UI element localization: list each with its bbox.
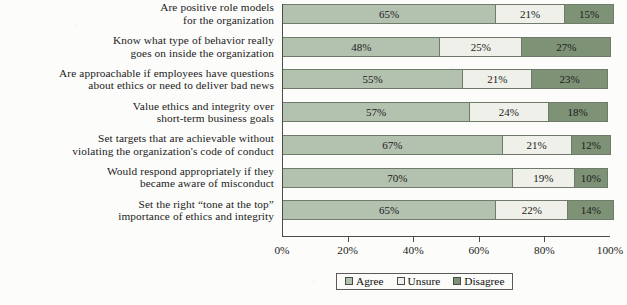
plot-area: 65%21%15%48%25%27%55%21%23%57%24%18%67%2… <box>282 4 610 237</box>
legend-swatch-icon <box>345 277 353 285</box>
bar-value-label: 18% <box>568 106 588 118</box>
bar-segment-disagree: 27% <box>522 37 611 57</box>
category-label-line: violating the organization's code of con… <box>0 145 274 158</box>
category-label: Value ethics and integrity overshort-ter… <box>0 100 279 125</box>
category-label-line: Would respond appropriately if they <box>0 165 274 178</box>
table-row: 70%19%10% <box>283 168 608 188</box>
bar-value-label: 21% <box>487 73 507 85</box>
bar-value-label: 21% <box>527 139 547 151</box>
axis-tick <box>544 237 545 242</box>
legend-item-agree[interactable]: Agree <box>345 275 384 287</box>
table-row: 65%21%15% <box>283 4 614 24</box>
bar-segment-agree: 55% <box>283 69 463 89</box>
category-label-line: Set targets that are achievable without <box>0 132 274 145</box>
axis-tick-label: 20% <box>337 244 358 256</box>
bar-segment-disagree: 23% <box>532 69 607 89</box>
bar-segment-agree: 48% <box>283 37 440 57</box>
axis-tick-label: 100% <box>597 244 623 256</box>
table-row: 48%25%27% <box>283 37 611 57</box>
bar-value-label: 55% <box>363 73 383 85</box>
category-label: Are positive role modelsfor the organiza… <box>0 1 279 26</box>
category-axis-line <box>282 236 610 237</box>
bar-segment-agree: 57% <box>283 102 470 122</box>
legend-item-disagree[interactable]: Disagree <box>453 275 504 287</box>
bar-segment-disagree: 15% <box>565 4 614 24</box>
axis-tick <box>479 237 480 242</box>
axis-tick-label: 60% <box>468 244 489 256</box>
bar-value-label: 10% <box>581 172 601 184</box>
axis-tick-label: 80% <box>534 244 555 256</box>
bar-segment-agree: 65% <box>283 4 496 24</box>
bar-segment-unsure: 22% <box>496 200 568 220</box>
bar-segment-agree: 70% <box>283 168 513 188</box>
bar-segment-unsure: 24% <box>470 102 549 122</box>
bar-segment-unsure: 21% <box>463 69 532 89</box>
chart-legend: AgreeUnsureDisagree <box>336 273 513 290</box>
bar-value-label: 19% <box>533 172 553 184</box>
bar-segment-agree: 65% <box>283 200 496 220</box>
bar-segment-disagree: 12% <box>572 135 611 155</box>
table-row: 65%22%14% <box>283 200 614 220</box>
axis-tick <box>413 237 414 242</box>
category-label: Would respond appropriately if theybecam… <box>0 165 279 190</box>
bar-value-label: 14% <box>581 204 601 216</box>
bar-segment-disagree: 14% <box>568 200 614 220</box>
legend-item-label: Unsure <box>408 275 441 287</box>
bar-value-label: 65% <box>379 8 399 20</box>
bar-value-label: 22% <box>522 204 542 216</box>
table-row: 67%21%12% <box>283 135 611 155</box>
bar-segment-disagree: 10% <box>575 168 608 188</box>
category-label-line: for the organization <box>0 14 274 27</box>
legend-swatch-icon <box>453 277 461 285</box>
category-label-line: importance of ethics and integrity <box>0 210 274 223</box>
bar-value-label: 48% <box>351 41 371 53</box>
category-label-line: Value ethics and integrity over <box>0 100 274 113</box>
legend-swatch-icon <box>397 277 405 285</box>
bar-segment-unsure: 19% <box>513 168 575 188</box>
bar-value-label: 21% <box>520 8 540 20</box>
category-label-line: about ethics or need to deliver bad news <box>0 79 274 92</box>
category-label-line: Are positive role models <box>0 1 274 14</box>
bar-value-label: 70% <box>387 172 407 184</box>
bar-value-label: 23% <box>559 73 579 85</box>
bar-segment-unsure: 25% <box>440 37 522 57</box>
bar-segment-disagree: 18% <box>549 102 608 122</box>
table-row: 57%24%18% <box>283 102 608 122</box>
category-label-line: Set the right “tone at the top” <box>0 198 274 211</box>
stacked-bar-chart: Are positive role modelsfor the organiza… <box>0 0 627 305</box>
table-row: 55%21%23% <box>283 69 608 89</box>
bar-value-label: 57% <box>366 106 386 118</box>
axis-tick-label: 0% <box>274 244 289 256</box>
category-label-line: Know what type of behavior really <box>0 34 274 47</box>
category-label-line: short-term business goals <box>0 112 274 125</box>
bar-segment-unsure: 21% <box>496 4 565 24</box>
category-label: Set targets that are achievable withoutv… <box>0 132 279 157</box>
category-label-line: goes on inside the organization <box>0 47 274 60</box>
bar-value-label: 12% <box>581 139 601 151</box>
axis-tick <box>348 237 349 242</box>
category-label: Know what type of behavior reallygoes on… <box>0 34 279 59</box>
bar-value-label: 27% <box>556 41 576 53</box>
legend-item-label: Agree <box>356 275 384 287</box>
legend-item-label: Disagree <box>464 275 504 287</box>
bar-value-label: 24% <box>499 106 519 118</box>
bar-value-label: 15% <box>579 8 599 20</box>
bar-value-label: 25% <box>471 41 491 53</box>
bar-value-label: 67% <box>382 139 402 151</box>
bar-segment-agree: 67% <box>283 135 503 155</box>
category-label: Set the right “tone at the top”importanc… <box>0 198 279 223</box>
bar-value-label: 65% <box>379 204 399 216</box>
category-label-line: became aware of misconduct <box>0 177 274 190</box>
legend-item-unsure[interactable]: Unsure <box>397 275 441 287</box>
axis-tick-label: 40% <box>403 244 424 256</box>
category-label: Are approachable if employees have quest… <box>0 67 279 92</box>
bar-segment-unsure: 21% <box>503 135 572 155</box>
category-label-line: Are approachable if employees have quest… <box>0 67 274 80</box>
